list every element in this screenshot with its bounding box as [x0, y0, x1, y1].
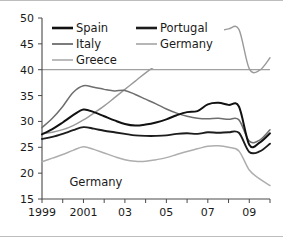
y-tick-label: 30 — [20, 115, 34, 128]
x-axis-tick-labels: 1999200103050709 — [28, 199, 270, 219]
y-axis-tick-labels: 1520253035404550 — [20, 12, 42, 206]
annotation-label-germany: Germany — [69, 175, 122, 189]
y-tick-label: 15 — [20, 193, 34, 206]
x-tick-label: 05 — [159, 206, 173, 219]
y-tick-label: 45 — [20, 38, 34, 51]
legend-label-italy: Italy — [76, 37, 101, 51]
y-tick-label: 25 — [20, 141, 34, 154]
chart-legend[interactable]: SpainPortugalItalyGermanyGreece — [48, 20, 224, 68]
legend-label-greece: Greece — [76, 53, 117, 67]
y-tick-label: 20 — [20, 167, 34, 180]
chart-container: 1520253035404550 1999200103050709 SpainP… — [0, 0, 283, 237]
y-tick-label: 40 — [20, 64, 34, 77]
legend-label-spain: Spain — [76, 21, 108, 35]
x-tick-label: 2001 — [69, 206, 97, 219]
y-tick-label: 50 — [20, 12, 34, 25]
series-line-spain — [42, 103, 270, 147]
legend-label-portugal: Portugal — [160, 21, 208, 35]
x-tick-label: 07 — [201, 206, 215, 219]
legend-label-germany: Germany — [160, 37, 213, 51]
y-tick-label: 35 — [20, 90, 34, 103]
x-tick-label: 03 — [118, 206, 132, 219]
chart-annotations: Germany — [69, 175, 122, 189]
x-tick-label: 1999 — [28, 206, 56, 219]
x-tick-label: 09 — [242, 206, 256, 219]
line-chart-plot: 1520253035404550 1999200103050709 SpainP… — [0, 0, 283, 237]
